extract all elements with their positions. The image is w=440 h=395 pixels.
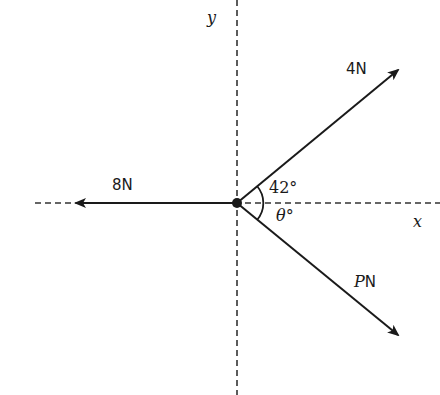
x-axis-label: x <box>413 214 422 230</box>
force-diagram: y x 4N 8N PN 42° θ° <box>0 0 440 395</box>
force-p-label: PN <box>354 274 376 290</box>
force-p-unit: N <box>365 273 376 291</box>
angle-theta-label: θ° <box>276 208 294 224</box>
force-p-arrow <box>237 203 398 335</box>
diagram-graphics <box>0 0 440 395</box>
angle-42-label: 42° <box>269 180 297 196</box>
y-axis-label: y <box>207 10 216 26</box>
theta-symbol: θ <box>276 206 286 225</box>
force-4n-label: 4N <box>346 62 367 77</box>
force-4n-arrow <box>237 70 398 203</box>
force-8n-label: 8N <box>112 178 133 193</box>
force-p-variable: P <box>354 272 365 291</box>
origin-point <box>232 198 242 208</box>
degree-symbol: ° <box>286 206 294 225</box>
